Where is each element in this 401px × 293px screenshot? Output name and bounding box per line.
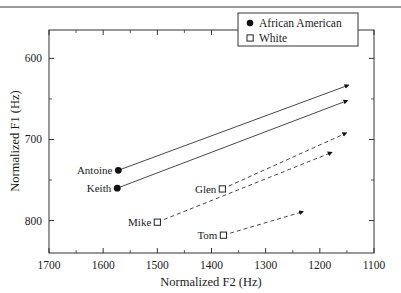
marker-antoine: [115, 167, 122, 174]
legend-marker-white: [247, 35, 253, 41]
legend-marker-african-american: [247, 20, 254, 27]
point-label-keith: Keith: [87, 182, 112, 194]
plot-frame: [49, 30, 374, 253]
marker-glen: [219, 186, 225, 192]
x-tick-label: 1200: [308, 259, 331, 271]
x-tick-label: 1100: [363, 259, 386, 271]
vowel-plot-chart: 1700160015001400130012001100600700800Nor…: [0, 0, 401, 293]
x-tick-label: 1500: [146, 259, 169, 271]
series-arrow-keith: [117, 101, 347, 189]
x-tick-label: 1600: [92, 259, 115, 271]
y-tick-label: 600: [25, 52, 43, 64]
marker-tom: [220, 232, 226, 238]
point-label-antoine: Antoine: [77, 164, 113, 176]
point-label-glen: Glen: [195, 183, 217, 195]
x-tick-label: 1400: [200, 259, 223, 271]
marker-mike: [154, 219, 160, 225]
y-tick-label: 700: [25, 133, 43, 145]
y-tick-label: 800: [25, 215, 43, 227]
series-arrow-tom: [223, 212, 303, 236]
legend-label-white: White: [259, 32, 287, 44]
series-arrow-antoine: [118, 85, 348, 170]
legend-label-african-american: African American: [259, 17, 342, 29]
figure-root: 1700160015001400130012001100600700800Nor…: [0, 0, 401, 293]
y-axis-title: Normalized F1 (Hz): [8, 90, 22, 191]
x-axis-title: Normalized F2 (Hz): [160, 275, 261, 289]
point-label-mike: Mike: [128, 216, 151, 228]
x-tick-label: 1300: [254, 259, 277, 271]
point-label-tom: Tom: [197, 229, 217, 241]
x-tick-label: 1700: [38, 259, 61, 271]
marker-keith: [114, 185, 121, 192]
